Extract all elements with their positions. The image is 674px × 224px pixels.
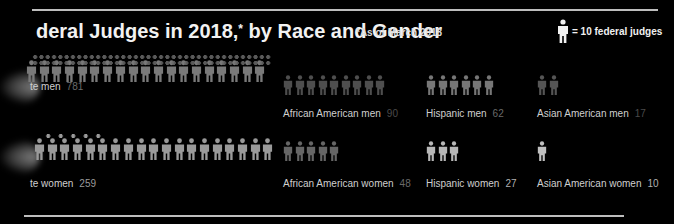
group-label: te men781 [30, 81, 83, 92]
person-icon [110, 138, 121, 160]
label-text: Asian American women [537, 178, 642, 189]
group-label: te women259 [30, 178, 96, 189]
person-icon [174, 138, 185, 160]
person-icon [250, 138, 261, 160]
label-text: te women [30, 178, 73, 189]
person-icon [72, 138, 83, 160]
label-value: 781 [67, 81, 84, 92]
icon-row [537, 75, 560, 95]
person-icon [329, 75, 339, 95]
icon-row [283, 75, 387, 95]
person-icon [537, 75, 547, 95]
person-icon [199, 138, 210, 160]
person-icon [426, 141, 436, 161]
person-icon [484, 75, 494, 95]
person-icon [262, 138, 273, 160]
icon-row [34, 138, 275, 160]
person-icon [283, 141, 293, 161]
overflow-heads [32, 54, 272, 66]
title-main: deral Judges in 2018, [36, 20, 238, 42]
person-icon [537, 141, 547, 161]
person-icon [341, 75, 351, 95]
label-value: 90 [387, 108, 398, 119]
person-icon [329, 141, 339, 161]
person-icon [306, 141, 316, 161]
icon-row [426, 75, 495, 95]
group-label: Asian American men17 [537, 108, 646, 119]
person-icon [375, 75, 385, 95]
person-icon [47, 138, 58, 160]
legend: = 10 federal judges [557, 19, 662, 43]
label-text: te men [30, 81, 61, 92]
group-hispanic-men: Hispanic men62 [426, 75, 495, 95]
person-icon [318, 75, 328, 95]
person-icon [123, 138, 134, 160]
person-icon [438, 141, 448, 161]
person-icon [148, 138, 159, 160]
person-icon [426, 75, 436, 95]
person-icon [212, 138, 223, 160]
person-icon [472, 75, 482, 95]
label-value: 10 [648, 178, 659, 189]
label-text: Hispanic women [426, 178, 499, 189]
person-icon [438, 75, 448, 95]
footnote: *As of March 2018 [356, 27, 442, 38]
label-value: 62 [493, 108, 504, 119]
person-icon [449, 75, 459, 95]
person-icon [461, 75, 471, 95]
group-hispanic-women: Hispanic women27 [426, 141, 461, 161]
group-asian-american-men: Asian American men17 [537, 75, 560, 95]
label-text: Asian American men [537, 108, 629, 119]
group-white-men: te men781 [26, 60, 267, 82]
top-rule [32, 9, 658, 11]
person-icon [85, 138, 96, 160]
person-icon [295, 75, 305, 95]
person-icon [237, 138, 248, 160]
person-icon [97, 138, 108, 160]
person-icon [136, 138, 147, 160]
person-icon [352, 75, 362, 95]
label-value: 259 [79, 178, 96, 189]
person-icon [186, 138, 197, 160]
bottom-rule [24, 215, 624, 217]
person-icon [306, 75, 316, 95]
person-icon [283, 75, 293, 95]
title-asterisk: * [238, 22, 243, 36]
person-icon [549, 75, 559, 95]
overflow-heads [42, 133, 102, 139]
person-icon [318, 141, 328, 161]
person-icon [59, 138, 70, 160]
label-text: African American men [283, 108, 381, 119]
group-label: African American women48 [283, 178, 411, 189]
group-label: Hispanic women27 [426, 178, 517, 189]
person-icon [224, 138, 235, 160]
label-value: 48 [400, 178, 411, 189]
group-label: African American men90 [283, 108, 398, 119]
label-value: 17 [635, 108, 646, 119]
icon-row [537, 141, 549, 161]
group-african-american-women: African American women48 [283, 141, 341, 161]
legend-label: = 10 federal judges [572, 26, 662, 37]
label-text: African American women [283, 178, 394, 189]
group-label: Hispanic men62 [426, 108, 504, 119]
group-white-women: te women259 [34, 138, 275, 160]
person-icon [34, 138, 45, 160]
person-icon [295, 141, 305, 161]
label-text: Hispanic men [426, 108, 487, 119]
person-icon [449, 141, 459, 161]
group-african-american-men: African American men90 [283, 75, 387, 95]
group-asian-american-women: Asian American women10 [537, 141, 549, 161]
group-label: Asian American women10 [537, 178, 659, 189]
person-icon [557, 19, 569, 43]
icon-row [26, 60, 267, 82]
icon-row [283, 141, 341, 161]
label-value: 27 [505, 178, 516, 189]
icon-row [426, 141, 461, 161]
person-icon [161, 138, 172, 160]
person-icon [364, 75, 374, 95]
